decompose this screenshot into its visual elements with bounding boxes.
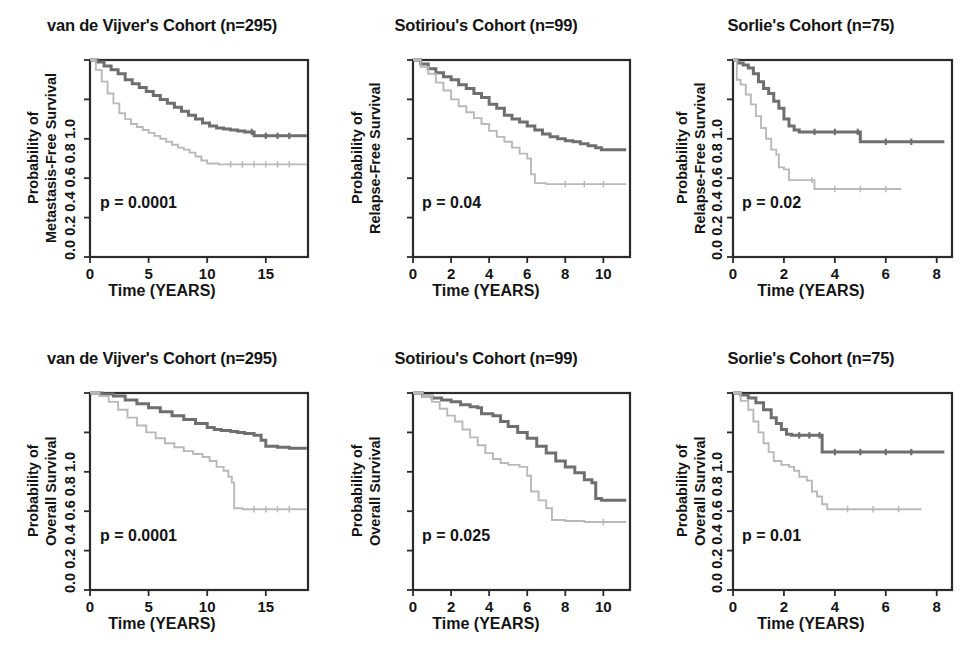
x-tick-label: 0 (86, 598, 94, 615)
x-tick-label: 2 (447, 598, 455, 615)
x-tick-label: 5 (144, 598, 152, 615)
km-curve-high-group (90, 393, 307, 448)
x-tick-label: 6 (523, 598, 531, 615)
x-tick-label: 4 (485, 598, 494, 615)
km-curve-low-group (413, 393, 626, 522)
axis-box (90, 60, 308, 257)
x-tick-label: 4 (485, 265, 494, 282)
kaplan-meier-figure: van de Vijver's Cohort (n=295)Probabilit… (0, 0, 973, 665)
km-curve-high-group (413, 60, 626, 150)
x-tick-label: 0 (409, 265, 417, 282)
km-panel-bottom-left: van de Vijver's Cohort (n=295)Probabilit… (0, 333, 324, 665)
km-curve-low-group (90, 393, 307, 509)
x-tick-label: 2 (447, 265, 455, 282)
x-tick-label: 0 (729, 265, 737, 282)
x-tick-label: 10 (199, 598, 216, 615)
x-tick-label: 4 (831, 265, 840, 282)
x-tick-label: 0 (729, 598, 737, 615)
axis-box (413, 60, 630, 257)
x-tick-label: 2 (780, 598, 788, 615)
x-tick-label: 8 (933, 265, 941, 282)
km-curve-high-group (733, 60, 944, 142)
x-tick-label: 15 (257, 265, 274, 282)
plot-area: 0246810 (324, 333, 648, 665)
x-tick-label: 8 (561, 265, 569, 282)
plot-area: 051015 (0, 0, 324, 332)
x-tick-label: 6 (882, 598, 890, 615)
axis-box (413, 393, 630, 590)
km-panel-bottom-middle: Sotiriou's Cohort (n=99)Probability ofOv… (324, 333, 648, 665)
plot-area: 051015 (0, 333, 324, 665)
x-tick-label: 15 (257, 598, 274, 615)
km-panel-bottom-right: Sorlie's Cohort (n=75)Probability ofOver… (649, 333, 973, 665)
km-curve-low-group (90, 60, 307, 164)
x-tick-label: 0 (86, 265, 94, 282)
axis-box (733, 393, 952, 590)
km-panel-top-left: van de Vijver's Cohort (n=295)Probabilit… (0, 0, 324, 332)
plot-area: 02468 (649, 333, 973, 665)
x-tick-label: 5 (144, 265, 152, 282)
x-tick-label: 0 (409, 598, 417, 615)
km-panel-top-middle: Sotiriou's Cohort (n=99)Probability ofRe… (324, 0, 648, 332)
x-tick-label: 8 (561, 598, 569, 615)
x-tick-label: 10 (199, 265, 216, 282)
x-tick-label: 4 (831, 598, 840, 615)
km-panel-top-right: Sorlie's Cohort (n=75)Probability ofRela… (649, 0, 973, 332)
x-tick-label: 10 (595, 265, 612, 282)
plot-area: 02468 (649, 0, 973, 332)
x-tick-label: 2 (780, 265, 788, 282)
plot-area: 0246810 (324, 0, 648, 332)
x-tick-label: 8 (933, 598, 941, 615)
x-tick-label: 10 (595, 598, 612, 615)
km-curve-high-group (90, 60, 307, 136)
x-tick-label: 6 (523, 265, 531, 282)
x-tick-label: 6 (882, 265, 890, 282)
